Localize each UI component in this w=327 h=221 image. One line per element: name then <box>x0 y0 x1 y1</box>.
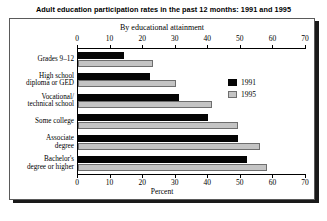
axis-tick-label-top-0: 0 <box>67 34 87 43</box>
bar-1991-4 <box>78 135 238 142</box>
category-label-2-line-1: technical school <box>0 101 74 109</box>
bar-1995-3 <box>78 122 238 129</box>
axis-tick-top-50 <box>240 45 241 48</box>
bar-1995-4 <box>78 143 260 150</box>
axis-tick-top-60 <box>272 45 273 48</box>
category-label-4: Associatedegree <box>0 135 74 150</box>
category-label-0-line-0: Grades 9–12 <box>0 56 74 64</box>
legend-swatch-1991-icon <box>228 79 237 86</box>
axis-tick-top-10 <box>110 45 111 48</box>
axis-tick-label-top-10: 10 <box>100 34 120 43</box>
category-label-5: Bachelor'sdegree or higher <box>0 156 74 171</box>
bar-1995-1 <box>78 80 176 87</box>
axis-tick-top-0 <box>77 45 78 48</box>
axis-tick-label-top-20: 20 <box>132 34 152 43</box>
bar-1991-3 <box>78 114 208 121</box>
axis-tick-label-bottom-70: 70 <box>295 178 315 187</box>
axis-tick-top-20 <box>142 45 143 48</box>
legend-label-1995: 1995 <box>241 90 256 99</box>
axis-tick-label-bottom-0: 0 <box>67 178 87 187</box>
axis-tick-label-bottom-10: 10 <box>100 178 120 187</box>
axis-tick-label-bottom-60: 60 <box>262 178 282 187</box>
category-label-3-line-0: Some college <box>0 118 74 126</box>
category-label-4-line-1: degree <box>0 143 74 151</box>
chart-panel: By educational attainment 00101020203030… <box>9 18 315 200</box>
axis-tick-label-top-60: 60 <box>262 34 282 43</box>
axis-tick-label-top-30: 30 <box>165 34 185 43</box>
legend-item-1995: 1995 <box>228 89 256 99</box>
x-axis-caption: Percent <box>10 187 314 196</box>
axis-tick-top-70 <box>305 45 306 48</box>
axis-tick-label-top-40: 40 <box>197 34 217 43</box>
legend-item-1991: 1991 <box>228 77 256 87</box>
category-label-0: Grades 9–12 <box>0 56 74 64</box>
bar-1991-5 <box>78 156 247 163</box>
axis-tick-label-top-70: 70 <box>295 34 315 43</box>
axis-tick-label-bottom-20: 20 <box>132 178 152 187</box>
category-label-1-line-1: diploma or GED <box>0 80 74 88</box>
axis-tick-label-bottom-30: 30 <box>165 178 185 187</box>
axis-tick-top-30 <box>175 45 176 48</box>
chart-legend: 1991 1995 <box>228 77 256 101</box>
category-label-1: High schooldiploma or GED <box>0 73 74 88</box>
bar-1995-5 <box>78 164 267 171</box>
chart-title: Adult education participation rates in t… <box>0 5 327 14</box>
category-label-5-line-1: degree or higher <box>0 164 74 172</box>
legend-swatch-1995-icon <box>228 91 237 98</box>
bar-1995-0 <box>78 60 153 67</box>
axis-tick-top-40 <box>207 45 208 48</box>
axis-tick-label-bottom-50: 50 <box>230 178 250 187</box>
bar-1991-1 <box>78 73 150 80</box>
category-label-3: Some college <box>0 118 74 126</box>
legend-label-1991: 1991 <box>241 78 256 87</box>
category-label-2: Vocational/technical school <box>0 94 74 109</box>
bar-1991-2 <box>78 94 179 101</box>
axis-tick-label-bottom-40: 40 <box>197 178 217 187</box>
bar-1991-0 <box>78 52 124 59</box>
chart-screenshot: Adult education participation rates in t… <box>0 0 327 221</box>
chart-subtitle: By educational attainment <box>10 23 314 32</box>
bar-1995-2 <box>78 101 212 108</box>
axis-tick-label-top-50: 50 <box>230 34 250 43</box>
axis-line-top <box>77 48 306 49</box>
